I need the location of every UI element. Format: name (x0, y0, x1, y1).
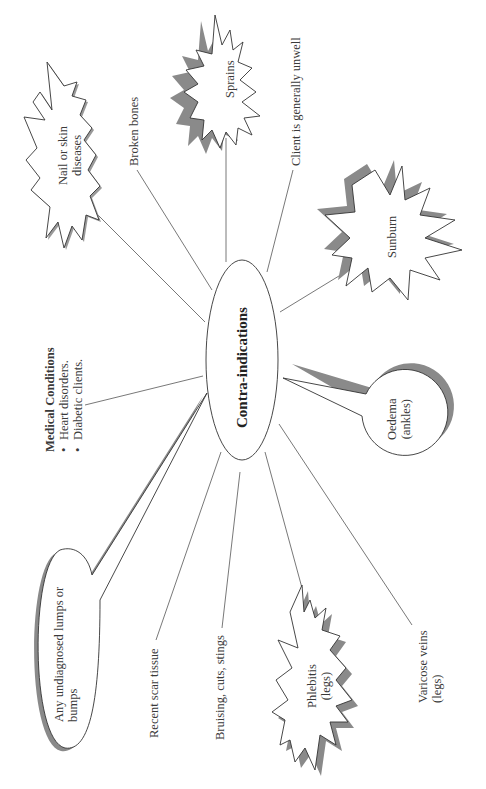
oedema-line2: (ankles) (399, 398, 413, 440)
sunburn-label: Sunburn (385, 216, 399, 258)
center-label: Contra-indications (234, 307, 251, 428)
sprains-starburst (170, 15, 260, 154)
line-scar (156, 452, 221, 640)
lumps-label: Any undiagnosed lumps or bumps (52, 587, 80, 722)
line-medical (85, 376, 203, 405)
oedema-bubble (283, 363, 454, 455)
phlebitis-label: Phlebitis (legs) (305, 664, 333, 708)
scar-label: Recent scar tissue (147, 648, 161, 738)
medical-conditions-block: Medical Conditions Heart disorders. Diab… (43, 347, 85, 452)
oedema-line1: Oedema (385, 398, 399, 440)
line-bruising (222, 472, 240, 628)
lumps-line2: bumps (66, 587, 80, 722)
nail-skin-line2: diseases (70, 126, 84, 185)
oedema-label: Oedema (ankles) (385, 398, 413, 440)
bruising-label: Bruising, cuts, stings (213, 635, 227, 740)
phlebitis-line1: Phlebitis (305, 664, 319, 708)
unwell-label: Client is generally unwell (289, 37, 303, 166)
sprains-label: Sprains (223, 61, 237, 99)
line-unwell (267, 170, 293, 272)
varicose-label: Varicose veins (legs) (416, 630, 444, 703)
phlebitis-line2: (legs) (319, 664, 333, 708)
nail-skin-line1: Nail or skin (56, 126, 70, 185)
medical-item-heart: Heart disorders. (57, 347, 71, 452)
lumps-line1: Any undiagnosed lumps or (52, 587, 66, 722)
line-broken-bones (137, 170, 212, 290)
varicose-line2: (legs) (430, 630, 444, 703)
broken-bones-label: Broken bones (127, 97, 141, 166)
nail-skin-label: Nail or skin diseases (56, 126, 84, 185)
medical-item-diabetic: Diabetic clients. (71, 347, 85, 452)
line-phlebitis (265, 452, 302, 588)
medical-conditions-title: Medical Conditions (43, 347, 57, 452)
line-nail-skin (93, 210, 205, 322)
varicose-line1: Varicose veins (416, 630, 430, 703)
